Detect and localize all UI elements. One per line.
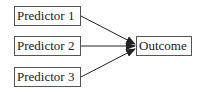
node-predictor-2: Predictor 2 bbox=[14, 36, 81, 56]
edge-p1-outcome bbox=[81, 16, 135, 44]
edge-p3-outcome bbox=[81, 49, 135, 77]
node-predictor-3: Predictor 3 bbox=[14, 67, 81, 87]
node-outcome: Outcome bbox=[136, 36, 192, 56]
node-predictor-1: Predictor 1 bbox=[14, 6, 81, 26]
